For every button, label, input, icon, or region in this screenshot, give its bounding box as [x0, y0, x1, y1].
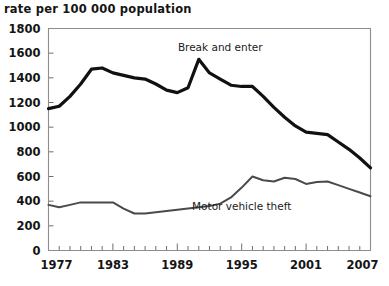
y-tick-label: 1800 — [8, 22, 40, 36]
y-tick-label: 400 — [16, 194, 40, 208]
y-tick-label: 1600 — [8, 46, 40, 60]
series-line-break-and-enter — [49, 59, 371, 168]
y-tick-label: 1400 — [8, 71, 40, 85]
axis-tick-marks — [49, 29, 371, 251]
line-chart-plot: 180016001400120010008006004002000 197719… — [0, 0, 389, 286]
x-tick-label: 1983 — [97, 258, 129, 272]
y-tick-label: 1200 — [8, 96, 40, 110]
plot-frame-border — [49, 29, 371, 251]
x-tick-label: 1989 — [161, 258, 193, 272]
plot-frame — [49, 29, 371, 251]
y-tick-label: 1000 — [8, 120, 40, 134]
y-axis-tick-labels: 180016001400120010008006004002000 — [8, 22, 40, 258]
y-tick-label: 0 — [32, 244, 40, 258]
data-series-group — [49, 59, 371, 213]
chart-container: rate per 100 000 population 180016001400… — [0, 0, 389, 286]
x-tick-label: 1995 — [226, 258, 258, 272]
y-tick-label: 800 — [16, 145, 40, 159]
series-annotation: Break and enter — [178, 41, 263, 53]
x-tick-label: 1977 — [40, 258, 72, 272]
x-tick-label: 2001 — [290, 258, 322, 272]
x-tick-label: 2007 — [346, 258, 378, 272]
x-axis-tick-labels: 197719831989199520012007 — [40, 258, 378, 272]
y-tick-label: 200 — [16, 219, 40, 233]
series-annotation: Motor vehicle theft — [192, 200, 291, 212]
y-tick-label: 600 — [16, 170, 40, 184]
